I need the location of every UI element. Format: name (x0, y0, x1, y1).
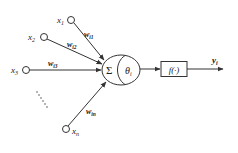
ellipsis-dots (36, 91, 47, 107)
input-xn: xn win (63, 82, 107, 137)
summation-symbol: Σ (106, 64, 112, 76)
input-x3: x3 wi3 (10, 59, 101, 76)
output-label: yi (211, 55, 218, 66)
weight-label-win: win (86, 107, 96, 117)
output: yi (187, 55, 223, 69)
input-node-x3 (23, 67, 30, 74)
activation-function: f(·) (161, 62, 187, 77)
input-node-xn (63, 126, 70, 133)
edge-xn (68, 82, 106, 126)
weight-label-wi3: wi3 (48, 59, 58, 69)
input-label-x2: x2 (27, 32, 35, 43)
input-node-x2 (41, 34, 48, 41)
input-node-x1 (68, 17, 75, 24)
edge-x2 (47, 39, 102, 64)
input-label-x1: x1 (56, 15, 64, 26)
input-label-x3: x3 (10, 65, 18, 76)
weight-label-wi2: wi2 (67, 40, 77, 50)
input-label-xn: xn (71, 126, 79, 137)
weight-label-wi1: wi1 (84, 30, 94, 40)
neuron-body: Σ θi (102, 55, 140, 85)
input-x1: x1 wi1 (56, 15, 104, 60)
neuron-diagram: x1 wi1 x2 wi2 x3 wi3 xn win Σ θi (0, 0, 238, 153)
activation-label: f(·) (169, 65, 180, 75)
edge-x1 (74, 23, 104, 60)
